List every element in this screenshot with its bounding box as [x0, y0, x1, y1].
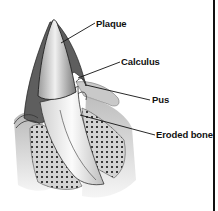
tooth-diagram: Plaque Calculus Pus Eroded bone [0, 0, 218, 211]
pointer-plaque [61, 23, 95, 43]
label-calculus: Calculus [121, 57, 160, 67]
label-pus: Pus [152, 95, 169, 105]
tooth-illustration [0, 0, 218, 211]
label-plaque: Plaque [96, 19, 127, 29]
label-eroded-bone: Eroded bone [156, 130, 213, 140]
frame-border [213, 0, 215, 211]
pointer-calculus [78, 62, 120, 78]
